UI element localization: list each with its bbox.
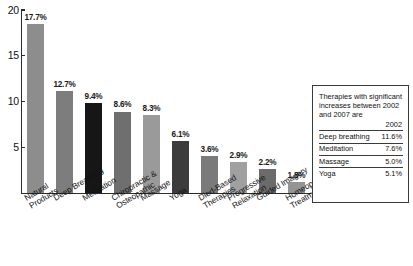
bar-value-label: 3.6%: [201, 146, 219, 154]
legend-row: Massage5.0%: [319, 155, 403, 167]
legend-row-label: Yoga: [319, 168, 378, 180]
legend-row-value: 7.6%: [378, 143, 403, 155]
legend-row-value: 5.1%: [378, 168, 403, 180]
bar[interactable]: 12.7%: [56, 91, 74, 193]
legend-table-box: Therapies with significant increases bet…: [312, 85, 409, 203]
y-tick-label: 15: [1, 50, 19, 61]
y-tick-label: 5: [1, 142, 19, 153]
bar-value-label: 8.6%: [114, 101, 132, 109]
legend-table: Deep breathing11.6%Meditation7.6%Massage…: [319, 130, 403, 179]
legend-row-value: 5.0%: [378, 155, 403, 167]
bar-series: 17.7%12.7%9.4%8.6%8.3%6.1%3.6%2.9%2.2%1.…: [21, 10, 311, 193]
legend-row: Deep breathing11.6%: [319, 131, 403, 143]
chart-root: 5101520 17.7%12.7%9.4%8.6%8.3%6.1%3.6%2.…: [0, 0, 413, 266]
y-tick-label: 20: [1, 5, 19, 16]
bar-value-label: 17.7%: [24, 14, 46, 22]
bar-value-label: 12.7%: [53, 81, 75, 89]
bar-value-label: 6.1%: [172, 131, 190, 139]
legend-row: Yoga5.1%: [319, 168, 403, 180]
y-tick-label: 10: [1, 96, 19, 107]
bar[interactable]: 17.7%: [27, 24, 45, 193]
x-axis-labels: NaturalProductsDeep BreathingMeditationC…: [21, 195, 321, 265]
legend-intro-text: Therapies with significant increases bet…: [319, 92, 403, 119]
legend-row-label: Meditation: [319, 143, 378, 155]
bar-value-label: 9.4%: [85, 93, 103, 101]
bar-fill: [27, 24, 45, 193]
bar-value-label: 2.2%: [259, 159, 277, 167]
legend-row: Meditation7.6%: [319, 143, 403, 155]
bar-fill: [56, 91, 74, 193]
legend-column-header: 2002: [319, 120, 403, 129]
bar-chart-plot-area: 5101520 17.7%12.7%9.4%8.6%8.3%6.1%3.6%2.…: [0, 0, 330, 266]
legend-row-value: 11.6%: [378, 131, 403, 143]
legend-row-label: Deep breathing: [319, 131, 378, 143]
bar-value-label: 2.9%: [230, 152, 248, 160]
legend-row-label: Massage: [319, 155, 378, 167]
bar-value-label: 8.3%: [143, 105, 161, 113]
